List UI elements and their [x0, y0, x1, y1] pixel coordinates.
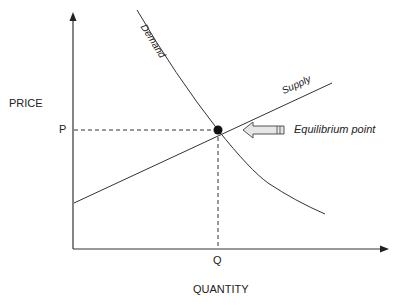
x-axis-arrow-icon [380, 246, 389, 253]
supply-curve [74, 83, 332, 203]
equilibrium-arrow-icon [243, 122, 284, 138]
demand-curve [137, 10, 325, 214]
equilibrium-label: Equilibrium point [294, 123, 375, 135]
price-tick-label: P [59, 123, 66, 135]
x-axis-label: QUANTITY [193, 283, 249, 295]
equilibrium-point [214, 126, 223, 135]
quantity-tick-label: Q [213, 254, 222, 266]
y-axis-arrow-icon [70, 12, 77, 21]
y-axis-label: PRICE [9, 97, 43, 109]
supply-demand-diagram [0, 0, 397, 305]
